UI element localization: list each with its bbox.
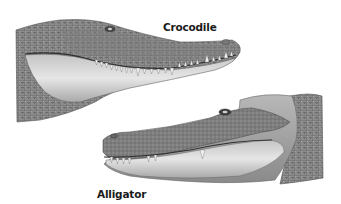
- crocodile-vs-alligator-illustration: Crocodile Alligator: [0, 0, 341, 204]
- crocodile-head: [16, 20, 240, 123]
- alligator-label: Alligator: [97, 188, 146, 200]
- alligator-head: [103, 94, 323, 184]
- crocodile-label: Crocodile: [163, 21, 217, 33]
